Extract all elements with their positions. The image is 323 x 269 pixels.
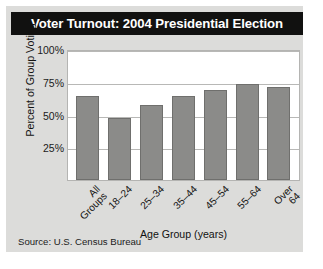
x-tick-label: Over 64 (264, 184, 303, 223)
bar (108, 118, 131, 180)
bar (140, 105, 163, 180)
chart-title: Voter Turnout: 2004 Presidential Electio… (31, 16, 283, 31)
y-tick-label: 75% (43, 77, 64, 89)
x-tick-label: 25–34 (135, 184, 166, 215)
y-tick-label: 25% (43, 142, 64, 154)
x-tick-label: 35–44 (167, 184, 198, 215)
y-tick-label: 100% (37, 44, 64, 56)
bar-series (68, 51, 299, 180)
x-axis-ticks: All Groups18–2425–3435–4445–5455–64Over … (67, 182, 300, 226)
x-tick-label: 55–64 (232, 184, 263, 215)
bar (267, 87, 290, 180)
y-axis-ticks: 100%75%50%25% (32, 50, 64, 181)
bar (76, 96, 99, 180)
x-tick-label: All Groups (71, 184, 110, 223)
bar (172, 96, 195, 180)
y-tick-label: 50% (43, 110, 64, 122)
chart-figure: Voter Turnout: 2004 Presidential Electio… (6, 6, 303, 252)
x-tick-label: 45–54 (200, 184, 231, 215)
plot-area (67, 50, 300, 181)
bar (204, 90, 227, 180)
chart-title-bar: Voter Turnout: 2004 Presidential Electio… (11, 12, 303, 35)
source-note: Source: U.S. Census Bureau (18, 236, 141, 247)
bar (236, 84, 259, 180)
